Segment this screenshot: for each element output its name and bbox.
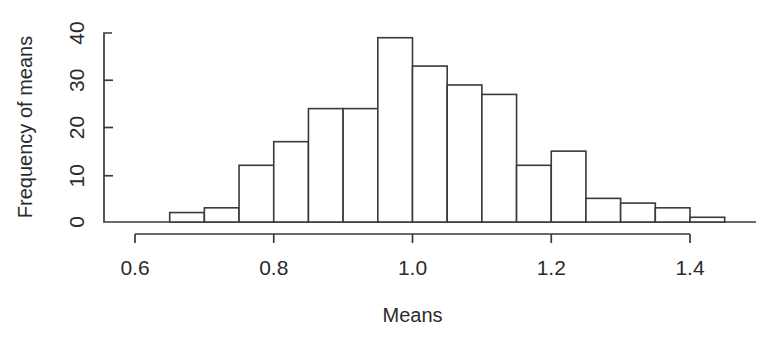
histogram-bar xyxy=(343,109,378,222)
histogram-bar xyxy=(655,208,690,222)
histogram-bar xyxy=(586,198,621,222)
histogram-bar xyxy=(204,208,239,222)
y-tick-labels: 0 10 20 30 40 xyxy=(65,21,88,228)
histogram-bar xyxy=(239,165,274,222)
histogram-bar xyxy=(482,94,517,222)
histogram-bar xyxy=(378,38,413,222)
histogram-bar xyxy=(517,165,552,222)
histogram-bar xyxy=(447,85,482,222)
histogram-bar xyxy=(170,213,205,222)
y-tick-label-40: 40 xyxy=(65,21,88,44)
histogram-bar xyxy=(413,66,448,222)
x-tick-label-0.8: 0.8 xyxy=(259,256,288,279)
x-axis xyxy=(135,234,690,243)
y-tick-label-0: 0 xyxy=(65,216,88,228)
y-axis xyxy=(104,33,113,222)
x-tick-label-1.2: 1.2 xyxy=(537,256,566,279)
y-tick-label-20: 20 xyxy=(65,116,88,139)
y-tick-label-10: 10 xyxy=(65,164,88,187)
histogram-bar xyxy=(690,217,725,222)
histogram-bar xyxy=(274,142,309,222)
histogram-bar xyxy=(551,151,586,222)
x-tick-labels: 0.6 0.8 1.0 1.2 1.4 xyxy=(120,256,705,279)
x-tick-label-1.0: 1.0 xyxy=(398,256,427,279)
x-axis-title: Means xyxy=(382,304,442,326)
x-tick-label-1.4: 1.4 xyxy=(675,256,705,279)
y-tick-label-30: 30 xyxy=(65,69,88,92)
histogram-bar xyxy=(621,203,656,222)
histogram-bar xyxy=(308,109,343,222)
x-tick-label-0.6: 0.6 xyxy=(120,256,149,279)
histogram-figure: 0 10 20 30 40 Frequency of means 0.6 0.8… xyxy=(0,0,776,337)
plot-canvas: 0 10 20 30 40 Frequency of means 0.6 0.8… xyxy=(0,0,776,337)
y-axis-title: Frequency of means xyxy=(14,36,36,218)
histogram-bars xyxy=(170,38,725,222)
